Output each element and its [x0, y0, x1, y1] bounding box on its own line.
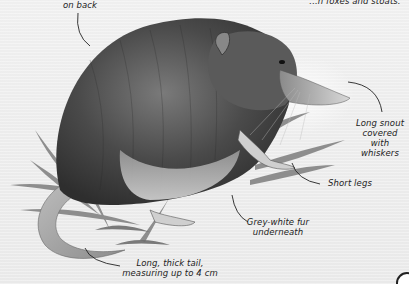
back-foot — [150, 210, 195, 226]
callout-fur-back: on back — [60, 0, 100, 10]
callout-predators-text: ...n foxes and stoats. — [309, 0, 400, 6]
callout-legs: Short legs — [328, 178, 398, 188]
callout-predators: ...n foxes and stoats. — [300, 0, 409, 6]
callout-fur-under-line-2: underneath — [238, 227, 318, 237]
callout-snout-line-2: covered with — [352, 128, 408, 148]
callout-tail: Long, thick tail, measuring up to 4 cm — [120, 258, 220, 278]
shrew-illustration — [0, 0, 409, 284]
callout-snout-line-1: Long snout — [352, 118, 408, 128]
callout-tail-line-1: Long, thick tail, — [120, 258, 220, 268]
callout-fur-back-text: on back — [63, 0, 97, 10]
callout-fur-under-line-1: Grey-white fur — [238, 217, 318, 227]
callout-snout-line-3: whiskers — [352, 148, 408, 158]
callout-tail-line-2: measuring up to 4 cm — [120, 268, 220, 278]
eye — [279, 60, 285, 64]
leader-fur-back — [78, 13, 91, 46]
callout-legs-text: Short legs — [328, 178, 372, 188]
callout-snout: Long snout covered with whiskers — [352, 118, 408, 158]
foreground-leaves — [95, 225, 170, 245]
callout-fur-under: Grey-white fur underneath — [238, 217, 318, 237]
